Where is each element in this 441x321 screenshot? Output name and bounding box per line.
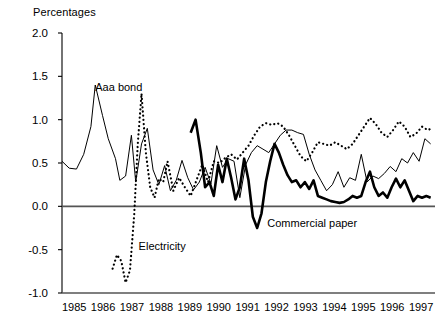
x-axis-tick-label: 1995 <box>351 301 375 313</box>
x-axis-tick-label: 1988 <box>149 301 173 313</box>
series-line-aaa-bond <box>62 85 431 198</box>
series-annotation-aaa-bond: Aaa bond <box>95 81 142 93</box>
chart-figure: Percentages 2.01.51.00.50.0-0.5-1.019851… <box>0 0 441 321</box>
x-axis-tick-label: 1987 <box>120 301 144 313</box>
x-axis-tick-label: 1996 <box>380 301 404 313</box>
y-axis-tick-label: 0.5 <box>32 157 48 169</box>
x-axis-tick-label: 1992 <box>264 301 288 313</box>
series-annotation-commercial-paper: Commercial paper <box>267 217 357 229</box>
line-chart-canvas: 2.01.51.00.50.0-0.5-1.019851986198719881… <box>0 0 441 321</box>
x-axis-tick-label: 1991 <box>235 301 259 313</box>
top-crop-mask <box>0 0 441 6</box>
series-annotation-electricity: Electricity <box>139 240 187 252</box>
y-axis-tick-label: -1.0 <box>28 287 48 299</box>
y-axis-tick-label: 2.0 <box>32 27 48 39</box>
x-axis-tick-label: 1997 <box>409 301 433 313</box>
series-line-commercial-paper <box>191 120 431 228</box>
x-axis-tick-label: 1990 <box>206 301 230 313</box>
y-axis-tick-label: 1.5 <box>32 70 48 82</box>
x-axis-tick-label: 1994 <box>322 301 346 313</box>
x-axis-tick-label: 1986 <box>91 301 115 313</box>
y-axis-tick-label: 1.0 <box>32 114 48 126</box>
y-axis-tick-label: 0.0 <box>32 200 48 212</box>
x-axis-tick-label: 1989 <box>178 301 202 313</box>
x-axis-tick-label: 1993 <box>293 301 317 313</box>
series-line-electricity <box>113 94 433 283</box>
x-axis-tick-label: 1985 <box>62 301 86 313</box>
y-axis-tick-label: -0.5 <box>28 244 48 256</box>
